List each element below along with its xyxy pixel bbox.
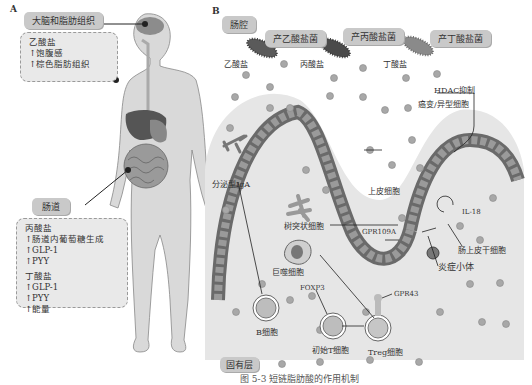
acetate-product-label: 乙酸盐 (224, 58, 248, 69)
dendritic-cell-label: 树突状细胞 (284, 220, 324, 231)
acetate-producer-label: 产乙酸盐菌 (265, 30, 326, 47)
macrophage-icon (284, 240, 311, 264)
lumen-label: 肠腔 (222, 16, 256, 33)
propionate-product-label: 丙酸盐 (300, 58, 324, 69)
inflammasome-icon (427, 247, 439, 259)
gpr109a-label: GPR109A (362, 228, 396, 236)
treg-cell-label: Treg细胞 (368, 346, 403, 357)
butyrate-producer-label: 产丁酸盐菌 (430, 30, 491, 47)
figure-caption: 图 5-3 短链脂肪酸的作用机制 (240, 372, 359, 385)
naive-t-cell-label: 初始T细胞 (312, 344, 349, 355)
foxp3-label: FOXP3 (300, 284, 325, 292)
secretory-iga-label: 分泌型IgA (212, 178, 250, 189)
b-cell-label: B细胞 (256, 326, 278, 337)
b-cell-icon (253, 295, 279, 321)
lamina-propria-label: 固有层 (220, 357, 259, 372)
cancer-cell-label: 癌变/异型细胞 (418, 98, 469, 109)
inflammasome-label: 炎症小体 (438, 260, 474, 273)
hdac-inhibition-label: HDAC抑制 (434, 84, 475, 95)
gpr43-label: GPR43 (394, 290, 418, 298)
epithelial-cell-label: 上皮细胞 (368, 185, 400, 196)
macrophage-label: 巨噬细胞 (272, 266, 304, 277)
intestinal-stem-cell-label: 肠上皮干细胞 (458, 244, 506, 255)
propionate-producer-label: 产丙酸盐菌 (343, 28, 404, 45)
il18-label: IL-18 (462, 208, 481, 216)
butyrate-product-label: 丁酸盐 (383, 58, 407, 69)
